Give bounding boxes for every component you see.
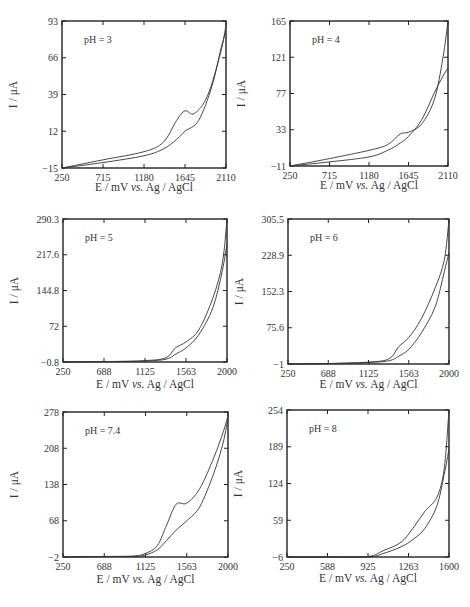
y-tick-label: 254 xyxy=(268,405,283,416)
x-tick-label: 2110 xyxy=(216,172,236,183)
chart-panel-4: 250688112515632000−175.6152.3228.9305.5p… xyxy=(233,214,459,392)
series-line-reverse xyxy=(62,31,226,168)
x-tick-label: 588 xyxy=(320,561,335,572)
x-tick-label: 1263 xyxy=(399,561,419,572)
x-tick-label: 1125 xyxy=(135,366,155,377)
panel-title: pH = 8 xyxy=(309,423,337,434)
y-tick-label: −11 xyxy=(271,161,286,172)
y-tick-label: 33 xyxy=(276,124,286,135)
y-tick-label: 305.5 xyxy=(262,214,285,225)
series-line-reverse xyxy=(290,68,448,166)
chart-panel-6: 25058892512631600−659124189254pH = 8E / … xyxy=(232,405,459,586)
y-tick-label: −0.8 xyxy=(41,357,59,368)
x-tick-label: 2000 xyxy=(439,368,459,379)
panel-title: pH = 6 xyxy=(310,232,338,243)
x-axis-label: E / mV vs. Ag / AgCl xyxy=(95,181,193,194)
x-axis-label: E / mV vs. Ag / AgCl xyxy=(320,378,418,391)
x-axis-label: E / mV vs. Ag / AgCl xyxy=(320,179,418,192)
panel-title: pH = 3 xyxy=(84,34,112,45)
x-tick-label: 250 xyxy=(56,366,71,377)
y-tick-label: 144.8 xyxy=(37,285,60,296)
y-tick-label: 189 xyxy=(268,441,283,452)
x-tick-label: 688 xyxy=(97,561,112,572)
y-tick-label: 278 xyxy=(44,407,59,418)
y-tick-label: 138 xyxy=(44,479,59,490)
y-axis-label: I / μA xyxy=(232,469,245,497)
x-tick-label: 2000 xyxy=(217,366,237,377)
series-line-forward xyxy=(63,416,228,557)
x-tick-label: 250 xyxy=(283,170,298,181)
x-tick-label: 2110 xyxy=(438,170,458,181)
y-axis-label: I / μA xyxy=(7,80,20,108)
chart-panel-3: 250688112515632000−0.872144.8217.6290.3p… xyxy=(8,214,237,392)
series-line-forward xyxy=(62,25,226,168)
y-tick-label: 93 xyxy=(48,16,58,27)
y-tick-label: 121 xyxy=(271,52,286,63)
x-tick-label: 250 xyxy=(55,172,70,183)
y-axis-label: I / μA xyxy=(233,277,246,305)
chart-canvas: 250715118016452110−1512396693pH = 3E / m… xyxy=(0,0,470,607)
x-tick-label: 250 xyxy=(56,561,71,572)
y-tick-label: 59 xyxy=(273,515,283,526)
y-tick-label: −15 xyxy=(42,163,58,174)
chart-panel-5: 250688112515632000−268138208278pH = 7.4E… xyxy=(8,407,238,587)
panel-title: pH = 5 xyxy=(85,232,113,243)
y-tick-label: 124 xyxy=(268,478,283,489)
x-axis-label: E / mV vs. Ag / AgCl xyxy=(97,573,195,586)
x-tick-label: 1600 xyxy=(439,561,459,572)
series-line-reverse xyxy=(287,449,449,557)
y-tick-label: −2 xyxy=(48,552,59,563)
x-axis-label: E / mV vs. Ag / AgCl xyxy=(96,378,194,391)
panel-title: pH = 4 xyxy=(312,34,340,45)
y-tick-label: 77 xyxy=(276,88,286,99)
chart-panel-2: 250715118016452110−113377121165pH = 4E /… xyxy=(235,16,458,193)
x-axis-label: E / mV vs. Ag / AgCl xyxy=(319,572,417,585)
x-tick-label: 688 xyxy=(97,366,112,377)
y-tick-label: 68 xyxy=(49,515,59,526)
x-tick-label: 1125 xyxy=(136,561,156,572)
y-tick-label: 75.6 xyxy=(267,322,285,333)
chart-panel-1: 250715118016452110−1512396693pH = 3E / m… xyxy=(7,16,236,195)
y-tick-label: 165 xyxy=(271,16,286,27)
x-tick-label: 250 xyxy=(281,368,296,379)
y-axis-label: I / μA xyxy=(235,79,248,107)
series-line-reverse xyxy=(63,244,227,362)
y-tick-label: 217.6 xyxy=(37,249,60,260)
x-tick-label: 1563 xyxy=(176,366,196,377)
series-line-reverse xyxy=(63,417,228,557)
series-line-reverse xyxy=(288,252,449,364)
x-tick-label: 925 xyxy=(361,561,376,572)
x-tick-label: 2000 xyxy=(218,561,238,572)
y-tick-label: 290.3 xyxy=(37,214,60,225)
x-tick-label: 1563 xyxy=(177,561,197,572)
y-tick-label: 39 xyxy=(48,89,58,100)
y-axis-label: I / μA xyxy=(8,470,21,498)
y-tick-label: −6 xyxy=(272,552,283,563)
y-tick-label: 152.3 xyxy=(262,286,285,297)
y-tick-label: 12 xyxy=(48,126,58,137)
y-tick-label: 72 xyxy=(49,321,59,332)
y-tick-label: 208 xyxy=(44,443,59,454)
y-axis-label: I / μA xyxy=(8,276,21,304)
y-tick-label: 66 xyxy=(48,52,58,63)
y-tick-label: 228.9 xyxy=(262,250,285,261)
panel-title: pH = 7.4 xyxy=(85,425,120,436)
x-tick-label: 250 xyxy=(280,561,295,572)
y-tick-label: −1 xyxy=(273,359,284,370)
